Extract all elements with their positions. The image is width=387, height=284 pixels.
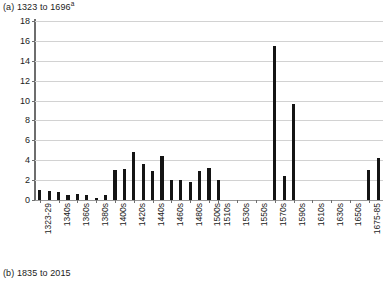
bar (57, 192, 60, 200)
y-tick-label: 18 (20, 16, 30, 26)
x-tick-mark (96, 200, 97, 203)
x-tick-label: 1550s (259, 203, 269, 226)
bar (104, 195, 107, 200)
x-tick-label: 1610s (316, 203, 326, 226)
y-tick-label: 2 (25, 175, 30, 185)
bar (273, 46, 276, 200)
bar (292, 104, 295, 200)
x-tick-mark (312, 200, 313, 203)
x-tick-mark (134, 200, 135, 203)
bar (48, 191, 51, 200)
x-tick-label: 1380s (100, 203, 110, 226)
x-tick-mark (369, 200, 370, 203)
bar (85, 195, 88, 200)
x-tick-mark (294, 200, 295, 203)
x-tick-label: 1323-29 (43, 203, 53, 234)
y-tick-label: 16 (20, 36, 30, 46)
bar (367, 170, 370, 200)
y-tick-label: 0 (25, 195, 30, 205)
bar (377, 158, 380, 200)
bar (283, 176, 286, 200)
x-tick-mark (77, 200, 78, 203)
bar (160, 156, 163, 200)
x-tick-mark (190, 200, 191, 203)
bar (142, 164, 145, 200)
bar (132, 152, 135, 200)
bar (198, 171, 201, 200)
x-tick-mark (350, 200, 351, 203)
x-tick-label: 1510s (222, 203, 232, 226)
y-tick-label: 6 (25, 135, 30, 145)
x-tick-label: 1480s (194, 203, 204, 226)
panel-a-caption-text: (a) 1323 to 1696 (3, 2, 71, 12)
x-tick-mark (331, 200, 332, 203)
bar (189, 182, 192, 200)
x-tick-label: 1530s (241, 203, 251, 226)
x-tick-mark (256, 200, 257, 203)
bar (207, 168, 210, 200)
x-tick-mark (218, 200, 219, 203)
x-tick-label: 1570s (278, 203, 288, 226)
x-axis-tick-labels: 1323-291340s1360s1380s1400s1420s1440s146… (35, 201, 383, 263)
y-tick-label: 10 (20, 96, 30, 106)
bar (66, 195, 69, 200)
y-tick-label: 8 (25, 115, 30, 125)
panel-a-caption-footnote-marker: a (71, 0, 75, 7)
x-tick-label: 1340s (62, 203, 72, 226)
x-tick-label: 1630s (335, 203, 345, 226)
x-tick-mark (237, 200, 238, 203)
x-tick-label: 1590s (297, 203, 307, 226)
y-tick-label: 14 (20, 56, 30, 66)
panel-b-caption: (b) 1835 to 2015 (3, 268, 71, 278)
x-tick-label: 1460s (175, 203, 185, 226)
x-tick-label: 1500s (212, 203, 222, 226)
bar (170, 180, 173, 200)
panel-a-caption: (a) 1323 to 1696a (3, 2, 74, 12)
y-tick-label: 4 (25, 155, 30, 165)
x-tick-label: 1650s (353, 203, 363, 226)
bar (179, 180, 182, 200)
bar (38, 190, 41, 200)
x-tick-mark (171, 200, 172, 203)
x-tick-label: 1360s (81, 203, 91, 226)
x-tick-mark (275, 200, 276, 203)
x-tick-mark (59, 200, 60, 203)
x-tick-mark (40, 200, 41, 203)
bar-chart-plot-area: 024681012141618 (35, 21, 383, 200)
x-tick-label: 1675-85 (372, 203, 382, 234)
bar (123, 169, 126, 200)
x-tick-mark (209, 200, 210, 203)
x-tick-label: 1420s (137, 203, 147, 226)
x-tick-label: 1440s (156, 203, 166, 226)
x-tick-mark (115, 200, 116, 203)
bar (151, 171, 154, 200)
bar (217, 180, 220, 200)
y-tick-label: 12 (20, 76, 30, 86)
bar (113, 170, 116, 200)
figure-panel-a: (a) 1323 to 1696a 024681012141618 1323-2… (0, 0, 387, 284)
x-tick-mark (153, 200, 154, 203)
x-tick-label: 1400s (118, 203, 128, 226)
bar-series (35, 21, 383, 200)
